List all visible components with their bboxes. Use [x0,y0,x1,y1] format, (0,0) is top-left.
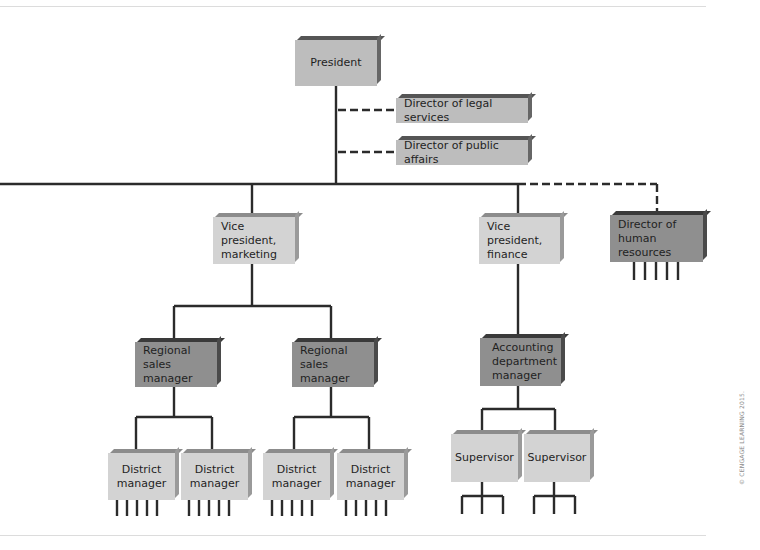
node-district-manager-1: District manager [108,453,175,500]
node-vp-marketing: Vice president, marketing [213,217,295,264]
node-director-human-resources: Director of human resources [610,215,703,262]
node-district-manager-4: District manager [337,453,404,500]
node-supervisor-1: Supervisor [451,434,518,482]
node-supervisor-2: Supervisor [524,434,590,482]
dm3-ticks [272,500,312,516]
copyright-credit: © CENGAGE LEARNING 2015. [738,391,745,485]
node-director-public-affairs: Director of public affairs [396,140,528,165]
node-accounting-department-manager: Accounting department manager [480,338,561,386]
dm4-ticks [346,500,386,516]
node-regional-sales-manager-2: Regional sales manager [292,342,374,387]
dm1-ticks [117,500,157,516]
node-district-manager-2: District manager [181,453,248,500]
node-vp-finance: Vice president, finance [479,217,560,264]
dm2-ticks [189,500,229,516]
org-chart: President Director of legal services Dir… [0,0,760,550]
hr-ticks [634,262,678,280]
node-district-manager-3: District manager [263,453,330,500]
node-director-legal-services: Director of legal services [396,98,528,123]
node-president: President [295,40,377,86]
node-regional-sales-manager-1: Regional sales manager [135,342,217,387]
